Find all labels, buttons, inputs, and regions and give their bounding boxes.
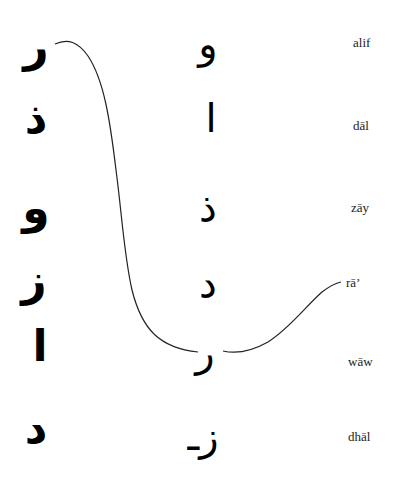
connector-ra-middle-to-label [223, 282, 341, 352]
left-letter-dal[interactable]: د [25, 406, 48, 450]
label-dhal[interactable]: dhāl [348, 429, 370, 445]
left-letter-waw[interactable]: و [22, 186, 49, 230]
label-dal[interactable]: dāl [353, 118, 369, 134]
left-letter-alif[interactable]: ا [32, 324, 47, 368]
middle-letter-ra[interactable]: ر [195, 332, 214, 372]
connector-lines [0, 0, 396, 478]
middle-letter-zay-initial[interactable]: زـ [187, 416, 218, 456]
left-letter-dhal[interactable]: ذ [25, 96, 48, 140]
middle-letter-alif[interactable]: ا [205, 98, 216, 138]
middle-letter-dhal[interactable]: ذ [199, 188, 217, 228]
middle-letter-dal[interactable]: د [199, 264, 217, 304]
left-letter-ra[interactable]: ر [23, 24, 48, 68]
label-alif[interactable]: alif [353, 35, 370, 51]
label-waw[interactable]: wāw [348, 354, 373, 370]
middle-letter-waw[interactable]: و [198, 24, 217, 64]
label-zay[interactable]: zāy [351, 200, 369, 216]
label-ra[interactable]: rā’ [346, 275, 360, 291]
left-letter-zay[interactable]: ز [21, 258, 46, 302]
connector-ra-left-to-middle [55, 41, 198, 352]
